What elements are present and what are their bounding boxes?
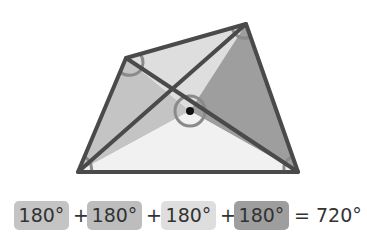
plus-sign: + — [146, 201, 162, 230]
term-box-4: 180° — [234, 201, 289, 230]
center-point — [186, 107, 194, 115]
equation-result: = 720° — [294, 201, 362, 230]
angle-sum-equation: 180° + 180° + 180° + 180° = 720° — [0, 201, 367, 231]
term-box-3: 180° — [161, 201, 216, 230]
term-box-1: 180° — [14, 201, 69, 230]
term-box-2: 180° — [87, 201, 142, 230]
quadrilateral-diagram — [0, 0, 367, 190]
